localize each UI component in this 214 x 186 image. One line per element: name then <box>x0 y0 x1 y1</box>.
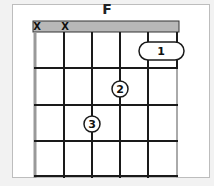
finger-1-barre: 1 <box>139 42 184 60</box>
frets <box>34 68 178 176</box>
finger-2-marker: 2 <box>112 81 128 97</box>
muted-marker-string-1: X <box>33 21 41 32</box>
svg-text:2: 2 <box>116 83 124 96</box>
finger-3-marker: 3 <box>84 116 100 132</box>
nut-bar <box>33 21 179 32</box>
svg-text:3: 3 <box>88 118 96 131</box>
chord-grid: X X 1 2 3 <box>0 0 214 186</box>
muted-marker-string-2: X <box>61 21 69 32</box>
svg-text:1: 1 <box>157 45 165 58</box>
